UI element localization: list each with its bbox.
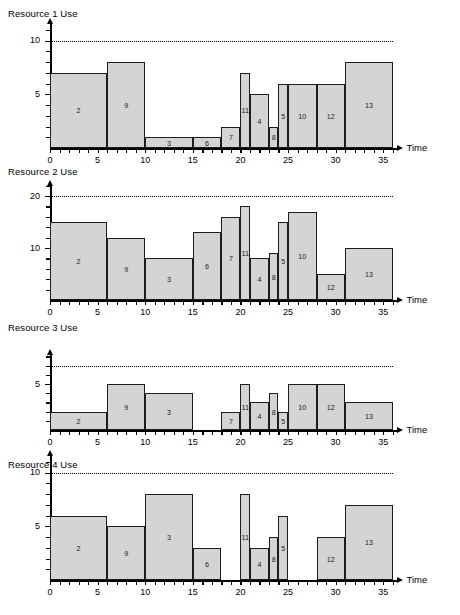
resource-bar[interactable]	[50, 73, 107, 148]
x-axis-label: Time	[406, 424, 427, 435]
resource-bar[interactable]	[317, 537, 346, 580]
resource-bar[interactable]	[193, 232, 222, 300]
resource-bar[interactable]	[107, 526, 145, 580]
x-tick-label: 5	[86, 437, 110, 447]
x-tick	[98, 302, 99, 306]
resource-bar[interactable]	[240, 494, 250, 580]
x-tick	[60, 302, 61, 306]
x-tick	[50, 432, 51, 436]
x-tick	[126, 302, 127, 306]
x-tick	[326, 150, 327, 154]
chart-title: Resource 3 Use	[8, 322, 78, 333]
x-tick	[355, 432, 356, 436]
x-tick	[136, 432, 137, 436]
resource-bar[interactable]	[269, 537, 279, 580]
resource-bar[interactable]	[345, 62, 393, 148]
resource-bar[interactable]	[50, 222, 107, 300]
x-tick	[79, 302, 80, 306]
x-tick-label: 25	[276, 437, 300, 447]
resource-bar[interactable]	[288, 84, 317, 149]
x-tick	[202, 432, 203, 436]
x-tick-label: 35	[371, 307, 395, 317]
x-tick	[336, 432, 337, 436]
resource-bar[interactable]	[240, 73, 250, 148]
x-tick	[174, 302, 175, 306]
x-tick	[288, 582, 289, 586]
x-tick	[383, 150, 384, 154]
x-tick	[117, 150, 118, 154]
resource-bar[interactable]	[278, 412, 288, 430]
resource-bar[interactable]	[240, 206, 250, 300]
resource-bar[interactable]	[278, 222, 288, 300]
x-axis-arrow-icon	[397, 297, 403, 303]
resource-bar[interactable]	[269, 253, 279, 300]
y-tick-label: 10	[16, 467, 40, 477]
resource-bar[interactable]	[221, 217, 240, 300]
resource-bar[interactable]	[278, 84, 288, 149]
resource-bar[interactable]	[145, 494, 193, 580]
resource-bar[interactable]	[145, 137, 193, 148]
x-tick	[107, 150, 108, 154]
x-tick	[155, 582, 156, 586]
x-tick	[250, 432, 251, 436]
resource-bar[interactable]	[317, 84, 346, 149]
resource-bar[interactable]	[50, 412, 107, 430]
x-tick	[107, 432, 108, 436]
resource-bar[interactable]	[193, 137, 222, 148]
x-tick	[107, 302, 108, 306]
x-tick	[183, 432, 184, 436]
resource-bar[interactable]	[221, 127, 240, 149]
resource-bar[interactable]	[250, 258, 269, 300]
x-axis-label: Time	[406, 142, 427, 153]
y-tick	[46, 356, 50, 357]
x-tick	[317, 150, 318, 154]
x-tick	[298, 582, 299, 586]
resource-bar[interactable]	[317, 274, 346, 300]
resource-bar[interactable]	[107, 238, 145, 300]
resource-bar[interactable]	[269, 393, 279, 430]
y-tick	[46, 217, 50, 218]
x-tick-label: 20	[228, 437, 252, 447]
resource-bar[interactable]	[345, 505, 393, 580]
x-tick	[98, 582, 99, 586]
resource-bar[interactable]	[145, 258, 193, 300]
x-tick	[136, 582, 137, 586]
x-tick-label: 10	[133, 587, 157, 597]
y-tick-label: 5	[16, 89, 40, 99]
resource-bar[interactable]	[193, 548, 222, 580]
x-tick	[393, 432, 394, 436]
resource-bar[interactable]	[317, 384, 346, 430]
x-tick	[202, 150, 203, 154]
resource-bar[interactable]	[250, 94, 269, 148]
resource-bar[interactable]	[221, 412, 240, 430]
y-tick	[46, 483, 50, 484]
x-tick	[259, 302, 260, 306]
x-tick	[98, 432, 99, 436]
x-tick-label: 25	[276, 587, 300, 597]
x-tick	[164, 150, 165, 154]
resource-bar[interactable]	[250, 402, 269, 430]
resource-bar[interactable]	[107, 384, 145, 430]
x-tick	[60, 150, 61, 154]
x-tick	[259, 150, 260, 154]
resource-bar[interactable]	[288, 384, 317, 430]
x-tick	[288, 302, 289, 306]
resource-bar[interactable]	[107, 62, 145, 148]
resource-bar[interactable]	[250, 548, 269, 580]
resource-bar[interactable]	[145, 393, 193, 430]
y-tick	[46, 30, 50, 31]
resource-bar[interactable]	[50, 516, 107, 581]
y-tick	[46, 494, 50, 495]
resource-bar[interactable]	[269, 127, 279, 149]
resource-bar[interactable]	[345, 248, 393, 300]
x-tick	[50, 582, 51, 586]
x-axis-arrow-icon	[397, 145, 403, 151]
resource-bar[interactable]	[240, 384, 250, 430]
x-tick	[126, 150, 127, 154]
x-tick	[183, 150, 184, 154]
x-tick	[326, 582, 327, 586]
resource-bar[interactable]	[278, 516, 288, 581]
x-tick	[364, 302, 365, 306]
resource-bar[interactable]	[345, 402, 393, 430]
resource-bar[interactable]	[288, 212, 317, 300]
